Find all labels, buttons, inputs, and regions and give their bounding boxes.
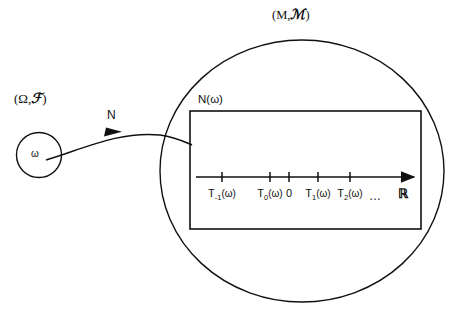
domain-space-open: (Ω, xyxy=(14,91,31,106)
axis-tick-label-zero: 0 xyxy=(286,188,292,199)
tick-subscript: 0 xyxy=(264,193,268,202)
figure-canvas: (Ω,ℱ) ω (M,ℳ) N N(ω) T-1(ω)T0(ω)0T1(ω)T2… xyxy=(0,0,459,314)
tick-argument: (ω) xyxy=(268,188,282,199)
tick-subscript: 2 xyxy=(344,193,348,202)
codomain-space-open: (M, xyxy=(272,8,290,22)
axis-tick-label-T_0: T0(ω) xyxy=(257,188,282,199)
tick-argument: (ω) xyxy=(221,188,235,199)
tick-subscript: -1 xyxy=(215,193,222,202)
sigma-algebra-f-symbol: ℱ xyxy=(31,91,42,106)
diagram-vector-layer xyxy=(0,0,459,314)
realisation-rectangle xyxy=(190,111,421,229)
tick-argument: (ω) xyxy=(316,188,330,199)
domain-point-label: ω xyxy=(31,149,39,159)
tick-base-symbol: T xyxy=(257,187,264,199)
axis-tick-label-T_2: T2(ω) xyxy=(337,188,362,199)
tick-subscript: 1 xyxy=(312,193,316,202)
codomain-ellipse xyxy=(160,40,444,302)
tick-base-symbol: 0 xyxy=(286,187,292,199)
real-line-symbol: ℝ xyxy=(398,187,408,200)
tick-argument: (ω) xyxy=(348,188,362,199)
codomain-space-label: (M,ℳ) xyxy=(272,8,310,22)
sigma-algebra-m-symbol: ℳ xyxy=(290,7,305,22)
domain-space-close: ) xyxy=(42,91,46,106)
mapping-arrow-label: N xyxy=(107,109,116,121)
tick-base-symbol: T xyxy=(337,187,344,199)
axis-tick-label-T_minus_1: T-1(ω) xyxy=(208,188,236,199)
mapping-arrowhead xyxy=(104,128,122,137)
tick-base-symbol: T xyxy=(305,187,312,199)
axis-ellipsis: … xyxy=(369,190,382,202)
tick-base-symbol: T xyxy=(208,187,215,199)
codomain-space-close: ) xyxy=(305,8,309,22)
mapping-arrow-curve xyxy=(46,134,192,160)
domain-circle xyxy=(17,133,62,178)
realisation-label: N(ω) xyxy=(198,94,223,106)
axis-tick-label-T_1: T1(ω) xyxy=(305,188,330,199)
domain-space-label: (Ω,ℱ) xyxy=(14,92,47,106)
